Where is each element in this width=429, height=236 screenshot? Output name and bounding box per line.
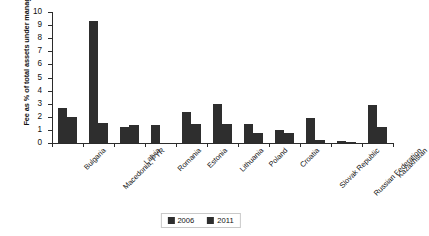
y-axis-title: Fee as % of total assets under managemen… (22, 0, 32, 126)
bar (275, 130, 285, 143)
bar (244, 124, 254, 143)
bar (58, 108, 68, 143)
y-tick: 3 (48, 104, 52, 105)
bar (151, 125, 161, 143)
bar (337, 141, 347, 143)
bar (306, 118, 316, 143)
bar (182, 112, 192, 143)
bar (213, 104, 223, 143)
bar-group (151, 12, 170, 143)
x-category-label: Estonia (205, 146, 229, 170)
bar-group (213, 12, 232, 143)
y-tick: 5 (48, 78, 52, 79)
y-tick-label: 5 (37, 72, 42, 83)
y-tick-label: 6 (37, 58, 42, 69)
y-tick: 4 (48, 91, 52, 92)
bar (346, 142, 356, 143)
x-category-label: Poland (266, 146, 289, 169)
bar-group (368, 12, 387, 143)
x-tick (393, 143, 394, 147)
y-tick-label: 3 (37, 98, 42, 109)
bar (222, 124, 232, 143)
bar (129, 125, 139, 143)
bar-group (275, 12, 294, 143)
x-category-label: Romania (175, 146, 202, 173)
chart-legend: 2006 2011 (160, 213, 240, 228)
y-tick: 6 (48, 64, 52, 65)
x-category-label: Bulgaria (81, 146, 107, 172)
bar (98, 123, 108, 143)
bar (284, 133, 294, 143)
bar (315, 140, 325, 143)
x-axis-category-labels: BulgariaMacedonia, FYRLatviaRomaniaEston… (52, 146, 393, 212)
y-axis-line (52, 12, 53, 143)
legend-item-2006: 2006 (167, 216, 194, 225)
bar-group (120, 12, 139, 143)
legend-label: 2011 (217, 216, 233, 225)
x-category-label: Lithuania (237, 146, 265, 174)
y-tick-label: 10 (33, 6, 42, 17)
bar-group (306, 12, 325, 143)
y-tick-label: 0 (37, 137, 42, 148)
legend-item-2011: 2011 (207, 216, 233, 225)
bar (67, 117, 77, 143)
y-tick-label: 4 (37, 85, 42, 96)
bar-group (244, 12, 263, 143)
bar (368, 105, 378, 143)
bar-group (337, 12, 356, 143)
y-tick: 2 (48, 117, 52, 118)
bar (191, 124, 201, 143)
bar (89, 21, 99, 143)
legend-swatch-icon (167, 217, 174, 224)
plot-area: 012345678910 (52, 12, 393, 143)
y-tick-label: 8 (37, 32, 42, 43)
bar (253, 133, 263, 143)
y-tick: 10 (48, 12, 52, 13)
bar (377, 127, 387, 143)
y-tick-label: 7 (37, 45, 42, 56)
y-tick-label: 9 (37, 19, 42, 30)
y-tick: 9 (48, 25, 52, 26)
y-tick: 8 (48, 38, 52, 39)
y-tick-label: 1 (37, 124, 42, 135)
y-tick: 7 (48, 51, 52, 52)
legend-label: 2006 (177, 216, 194, 225)
legend-swatch-icon (207, 217, 214, 224)
y-tick-label: 2 (37, 111, 42, 122)
x-category-label: Slovak Republic (337, 146, 381, 190)
bar (120, 127, 130, 143)
bar-group (58, 12, 77, 143)
x-category-label: Croatia (297, 146, 320, 169)
bar-group (89, 12, 108, 143)
bar-group (182, 12, 201, 143)
x-axis-line (52, 143, 393, 144)
y-tick: 1 (48, 130, 52, 131)
